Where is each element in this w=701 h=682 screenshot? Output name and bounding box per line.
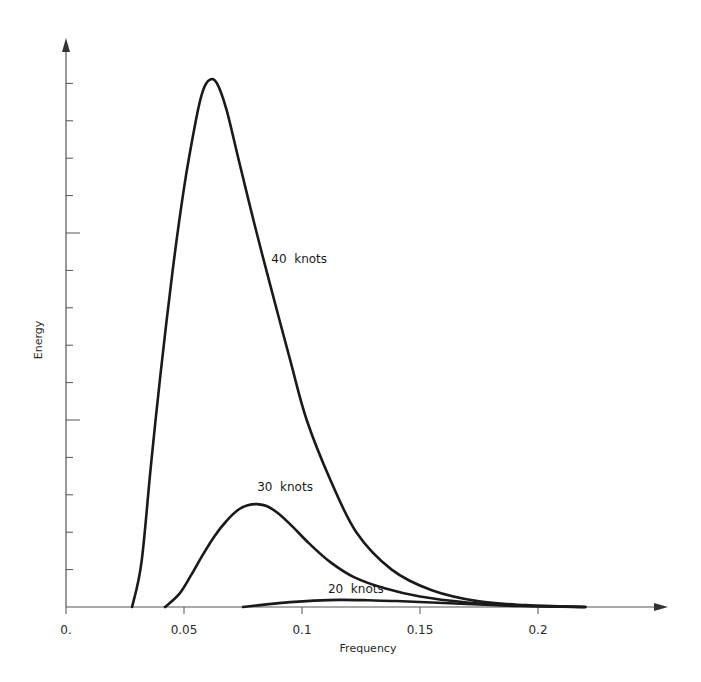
energy-frequency-chart: 0.0.050.10.150.2 40 knots30 knots20 knot…: [0, 0, 701, 682]
series-curves: [132, 79, 585, 607]
y-axis-arrow-icon: [62, 38, 70, 52]
x-axis-title: Frequency: [340, 642, 397, 655]
x-tick-label: 0.15: [407, 623, 434, 637]
x-axis-ticks: 0.0.050.10.150.2: [60, 607, 547, 637]
x-tick-label: 0.05: [171, 623, 198, 637]
x-tick-label: 0.2: [528, 623, 547, 637]
x-axis-arrow-icon: [654, 603, 668, 611]
x-tick-label: 0.1: [292, 623, 311, 637]
series-label-30-knots: 30 knots: [257, 480, 313, 494]
y-axis-title: Energy: [32, 320, 45, 359]
curve-40-knots: [132, 79, 585, 607]
x-tick-label: 0.: [60, 623, 71, 637]
y-axis-ticks: [66, 83, 80, 569]
curve-20-knots: [243, 600, 585, 607]
series-label-20-knots: 20 knots: [328, 582, 384, 596]
axes: [62, 38, 668, 611]
series-label-40-knots: 40 knots: [271, 252, 327, 266]
